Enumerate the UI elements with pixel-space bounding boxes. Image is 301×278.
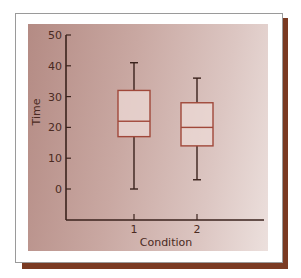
- y-tick-label: 10: [48, 152, 62, 165]
- y-axis: 01020304050: [48, 29, 71, 220]
- iqr-box: [181, 103, 213, 146]
- box-plot: 01020304050 12 Time Condition: [0, 0, 301, 278]
- y-axis-title: Time: [30, 98, 43, 126]
- x-axis-title: Condition: [140, 236, 193, 249]
- iqr-box: [118, 90, 150, 136]
- boxes: [118, 63, 213, 189]
- box-1: [118, 63, 150, 189]
- y-tick-label: 0: [55, 183, 62, 196]
- y-tick-label: 50: [48, 29, 62, 42]
- x-tick-label: 2: [194, 223, 201, 236]
- x-tick-label: 1: [131, 223, 138, 236]
- y-tick-label: 20: [48, 121, 62, 134]
- x-axis: 12: [66, 214, 264, 236]
- y-tick-label: 30: [48, 91, 62, 104]
- box-2: [181, 78, 213, 180]
- y-tick-label: 40: [48, 60, 62, 73]
